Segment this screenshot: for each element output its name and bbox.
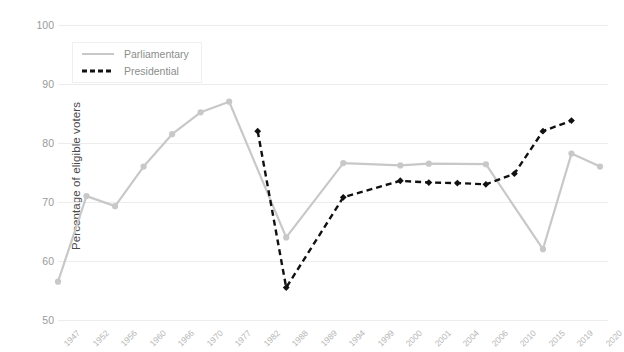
data-point[interactable] xyxy=(397,177,404,184)
data-point[interactable] xyxy=(112,203,118,209)
data-point[interactable] xyxy=(83,193,89,199)
data-point[interactable] xyxy=(597,164,603,170)
data-point[interactable] xyxy=(397,162,403,168)
data-point[interactable] xyxy=(226,99,232,105)
data-point[interactable] xyxy=(169,131,175,137)
legend-item-parliamentary[interactable]: Parliamentary xyxy=(81,48,189,60)
data-point[interactable] xyxy=(540,246,546,252)
data-point[interactable] xyxy=(283,234,289,240)
legend-item-presidential[interactable]: Presidential xyxy=(81,65,189,77)
data-point[interactable] xyxy=(198,109,204,115)
legend-swatch-dashed-line-icon xyxy=(81,66,115,76)
data-point[interactable] xyxy=(340,160,346,166)
data-point[interactable] xyxy=(454,180,461,187)
legend-label-parliamentary: Parliamentary xyxy=(124,48,189,60)
data-point[interactable] xyxy=(568,117,575,124)
series-line-presidential xyxy=(258,121,572,288)
legend-label-presidential: Presidential xyxy=(124,65,179,77)
series-presidential xyxy=(254,117,575,291)
legend-swatch-solid-line-icon xyxy=(81,49,115,59)
data-point[interactable] xyxy=(482,181,489,188)
data-point[interactable] xyxy=(140,164,146,170)
data-point[interactable] xyxy=(483,161,489,167)
data-point[interactable] xyxy=(568,151,574,157)
series-parliamentary xyxy=(55,99,603,285)
data-point[interactable] xyxy=(425,179,432,186)
series-line-parliamentary xyxy=(58,102,600,282)
legend: Parliamentary Presidential xyxy=(72,42,202,83)
data-point[interactable] xyxy=(55,279,61,285)
data-point[interactable] xyxy=(426,161,432,167)
data-point[interactable] xyxy=(254,128,261,135)
data-point[interactable] xyxy=(540,128,547,135)
